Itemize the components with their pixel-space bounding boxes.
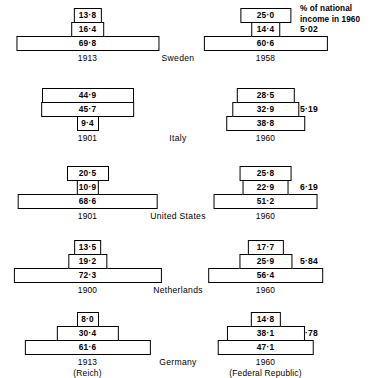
bar-row: 13·8 <box>0 8 175 23</box>
bar-row: 25·0 <box>178 8 353 23</box>
bar-row: 68·6 <box>0 194 175 209</box>
bar-segment: 22·9 <box>242 180 289 195</box>
percent-national-income-value: 5·19 <box>300 104 370 114</box>
bar-row: 20·5 <box>0 166 175 181</box>
bar-segment: 25·9 <box>239 254 292 269</box>
pyramid: 8·030·461·61913(Reich) <box>0 312 175 354</box>
bar-row: 47·1 <box>178 340 353 355</box>
percent-national-income-value: 3·78 <box>300 328 370 338</box>
bar-segment: 10·9 <box>76 180 98 195</box>
bar-value-label: 17·7 <box>257 243 274 251</box>
bar-segment: 28·5 <box>236 88 294 103</box>
bar-segment: 56·4 <box>208 268 324 283</box>
bar-value-label: 10·9 <box>79 183 96 191</box>
bar-value-label: 28·5 <box>257 91 274 99</box>
bar-value-label: 44·9 <box>79 91 96 99</box>
bar-segment: 25·8 <box>239 166 292 181</box>
bar-value-label: 56·4 <box>257 271 274 279</box>
bar-value-label: 22·9 <box>257 183 274 191</box>
bar-value-label: 13·8 <box>79 11 96 19</box>
country-name-label: Netherlands <box>0 285 356 295</box>
bar-row: 61·6 <box>0 340 175 355</box>
pyramid: 13·816·469·81913 <box>0 8 175 50</box>
bar-value-label: 25·0 <box>257 11 274 19</box>
bar-segment: 61·6 <box>24 340 150 355</box>
bar-value-label: 61·6 <box>79 343 96 351</box>
bar-row: 72·3 <box>0 268 175 283</box>
bar-value-label: 25·8 <box>257 169 274 177</box>
bar-segment: 32·9 <box>232 102 299 117</box>
bar-segment: 25·0 <box>240 8 291 23</box>
pyramid: 20·510·968·61901 <box>0 166 175 208</box>
country-name-label: Italy <box>0 133 356 143</box>
bar-value-label: 19·2 <box>79 257 96 265</box>
bar-segment: 38·1 <box>226 326 304 341</box>
percent-national-income-value: 5·84 <box>300 256 370 266</box>
country-name-label: Sweden <box>0 53 356 63</box>
bar-segment: 60·6 <box>203 36 327 51</box>
bar-segment: 45·7 <box>41 102 135 117</box>
bar-segment: 14·8 <box>250 312 280 327</box>
bar-value-label: 9·4 <box>81 119 94 127</box>
bar-row: 56·4 <box>178 268 353 283</box>
bar-segment: 17·7 <box>247 240 283 255</box>
bar-segment: 51·2 <box>213 194 318 209</box>
bar-row: 60·6 <box>178 36 353 51</box>
bar-row: 16·4 <box>0 22 175 37</box>
bar-value-label: 51·2 <box>257 197 274 205</box>
year-sublabel: (Reich) <box>0 368 175 378</box>
bar-value-label: 68·6 <box>79 197 96 205</box>
bar-segment: 72·3 <box>13 268 161 283</box>
bar-row: 8·0 <box>0 312 175 327</box>
bar-value-label: 16·4 <box>79 25 96 33</box>
bar-segment: 20·5 <box>66 166 108 181</box>
bar-segment: 44·9 <box>41 88 133 103</box>
bar-value-label: 47·1 <box>257 343 274 351</box>
bar-segment: 8·0 <box>77 312 99 327</box>
bar-segment: 69·8 <box>16 36 159 51</box>
bar-value-label: 38·1 <box>257 329 274 337</box>
bar-row: 30·4 <box>0 326 175 341</box>
bar-row: 69·8 <box>0 36 175 51</box>
bar-row: 38·8 <box>178 116 353 131</box>
bar-value-label: 13·5 <box>79 243 96 251</box>
bar-row: 25·8 <box>178 166 353 181</box>
bar-segment: 19·2 <box>68 254 107 269</box>
bar-value-label: 69·8 <box>79 39 96 47</box>
bar-value-label: 14·4 <box>257 25 274 33</box>
country-name-label: United States <box>0 211 356 221</box>
bar-value-label: 45·7 <box>79 105 96 113</box>
bar-value-label: 8·0 <box>81 315 94 323</box>
bar-row: 45·7 <box>0 102 175 117</box>
bar-value-label: 30·4 <box>79 329 96 337</box>
year-sublabel: (Federal Republic) <box>178 368 353 378</box>
bar-value-label: 60·6 <box>257 39 274 47</box>
bar-row: 44·9 <box>0 88 175 103</box>
bar-row: 17·7 <box>178 240 353 255</box>
bar-row: 9·4 <box>0 116 175 131</box>
bar-segment: 9·4 <box>77 116 99 131</box>
bar-segment: 16·4 <box>71 22 105 37</box>
bar-segment: 38·8 <box>226 116 306 131</box>
bar-row: 13·5 <box>0 240 175 255</box>
percent-national-income-value: 6·19 <box>300 182 370 192</box>
pyramid: 44·945·79·41901 <box>0 88 175 130</box>
bar-segment: 68·6 <box>17 194 158 209</box>
bar-row: 19·2 <box>0 254 175 269</box>
figure-root: % of national income in 1960 13·816·469·… <box>0 0 381 378</box>
pyramid: 13·519·272·31900 <box>0 240 175 282</box>
bar-row: 51·2 <box>178 194 353 209</box>
country-name-label: Germany <box>0 357 356 367</box>
bar-value-label: 20·5 <box>79 169 96 177</box>
bar-segment: 13·5 <box>74 240 102 255</box>
bar-value-label: 72·3 <box>79 271 96 279</box>
percent-national-income-value: 5·02 <box>300 24 370 34</box>
bar-segment: 14·4 <box>251 22 281 37</box>
bar-value-label: 25·9 <box>257 257 274 265</box>
bar-value-label: 14·8 <box>257 315 274 323</box>
bar-row: 14·8 <box>178 312 353 327</box>
bar-value-label: 38·8 <box>257 119 274 127</box>
bar-row: 10·9 <box>0 180 175 195</box>
bar-segment: 47·1 <box>217 340 314 355</box>
bar-segment: 13·8 <box>73 8 101 23</box>
